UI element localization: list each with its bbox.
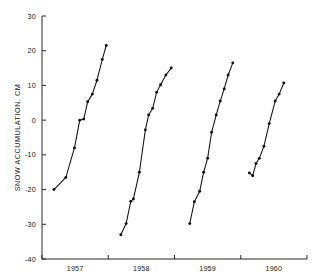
x-axis-ticks — [42, 255, 307, 259]
data-point — [268, 122, 271, 125]
series-line-1958 — [121, 68, 171, 235]
data-series-group — [52, 44, 285, 236]
snow-accumulation-chart: 3020100-10-20-30-40 1957195819591960 SNO… — [0, 0, 320, 280]
x-axis: 1957195819591960 — [42, 255, 307, 273]
data-point — [164, 74, 167, 77]
data-point — [105, 44, 108, 47]
series-line-1960 — [249, 83, 283, 176]
data-point — [125, 222, 128, 225]
data-point — [248, 171, 251, 174]
chart-canvas: 3020100-10-20-30-40 1957195819591960 SNO… — [0, 0, 320, 280]
data-point — [86, 100, 89, 103]
data-point — [255, 162, 258, 165]
data-point — [231, 61, 234, 64]
data-point — [223, 87, 226, 90]
series-line-1957 — [54, 46, 106, 190]
data-point — [144, 128, 147, 131]
data-point — [227, 74, 230, 77]
data-point — [193, 200, 196, 203]
data-point — [151, 107, 154, 110]
data-point — [78, 119, 81, 122]
y-tick-label: -20 — [25, 185, 36, 194]
y-tick-label: 0 — [32, 116, 36, 125]
y-tick-label: 30 — [28, 12, 36, 21]
data-point — [138, 171, 141, 174]
data-point — [210, 131, 213, 134]
data-point — [282, 82, 285, 85]
data-point — [52, 188, 55, 191]
y-tick-label: 20 — [28, 46, 36, 55]
y-tick-label: -30 — [25, 220, 36, 229]
data-point — [219, 100, 222, 103]
data-point — [119, 233, 122, 236]
x-tick-label: 1959 — [199, 264, 216, 273]
data-point — [159, 83, 162, 86]
data-point — [64, 176, 67, 179]
y-axis-ticks: 3020100-10-20-30-40 — [25, 12, 46, 264]
y-axis: 3020100-10-20-30-40 — [25, 12, 46, 264]
data-point — [101, 58, 104, 61]
data-point — [129, 200, 132, 203]
y-axis-title: SNOW ACCUMULATION, CM — [13, 84, 22, 192]
series-1960 — [248, 82, 285, 178]
data-point — [73, 146, 76, 149]
data-point — [278, 93, 281, 96]
series-line-1959 — [190, 63, 233, 224]
data-point — [91, 93, 94, 96]
data-point — [132, 197, 135, 200]
y-tick-label: -40 — [25, 255, 36, 264]
x-axis-tick-labels: 1957195819591960 — [67, 264, 283, 273]
series-1959 — [188, 61, 234, 225]
y-tick-label: -10 — [25, 150, 36, 159]
data-point — [188, 222, 191, 225]
data-point — [82, 118, 85, 121]
data-point — [170, 67, 173, 70]
data-point — [147, 113, 150, 116]
data-point — [155, 91, 158, 94]
data-point — [202, 171, 205, 174]
data-point — [198, 190, 201, 193]
data-point — [215, 113, 218, 116]
y-tick-label: 10 — [28, 81, 36, 90]
data-point — [274, 100, 277, 103]
data-point — [262, 145, 265, 148]
x-tick-label: 1957 — [67, 264, 84, 273]
x-tick-label: 1960 — [265, 264, 282, 273]
data-point — [206, 157, 209, 160]
data-point — [96, 79, 99, 82]
series-1957 — [52, 44, 107, 191]
data-point — [258, 157, 261, 160]
series-1958 — [119, 67, 172, 237]
x-tick-label: 1958 — [133, 264, 150, 273]
data-point — [251, 174, 254, 177]
